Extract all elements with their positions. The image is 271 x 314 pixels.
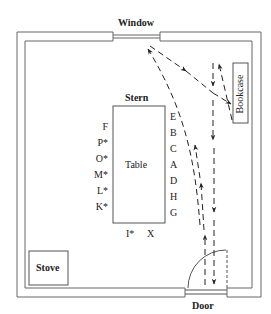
- stern-label: Stern: [125, 93, 148, 103]
- door-label: Door: [192, 301, 214, 311]
- path-junction-to-bookcase: [213, 93, 231, 104]
- seat-left-2: O*: [88, 154, 108, 164]
- door: [185, 250, 227, 294]
- seat-left-5: K*: [88, 202, 108, 212]
- path-up-2: [201, 183, 204, 230]
- seat-right-2: C: [170, 144, 182, 154]
- seat-left-0: F: [88, 122, 108, 132]
- window-label: Window: [118, 18, 154, 28]
- seat-left-3: M*: [88, 170, 108, 180]
- seat-bottom-1: X: [147, 229, 154, 239]
- table-label: Table: [125, 160, 147, 170]
- path-up-3: [195, 145, 200, 178]
- stove-label: Stove: [36, 263, 59, 273]
- path-window-to-junction: [150, 46, 186, 71]
- window: [113, 35, 160, 38]
- seat-right-1: B: [170, 128, 182, 138]
- seat-left-4: L*: [88, 186, 108, 196]
- seat-left-1: P*: [88, 138, 108, 148]
- bookcase-label: Bookcase: [235, 67, 247, 122]
- seat-bottom-0: I*: [126, 229, 134, 239]
- seat-right-5: H: [170, 192, 182, 202]
- movement-paths: [148, 46, 232, 285]
- seat-right-4: D: [170, 176, 182, 186]
- seat-right-6: G: [170, 208, 182, 218]
- seat-right-3: A: [170, 160, 182, 170]
- path-bookcase-up: [219, 64, 232, 120]
- path-window-junction-cont: [186, 71, 213, 93]
- seat-right-0: E: [170, 112, 182, 122]
